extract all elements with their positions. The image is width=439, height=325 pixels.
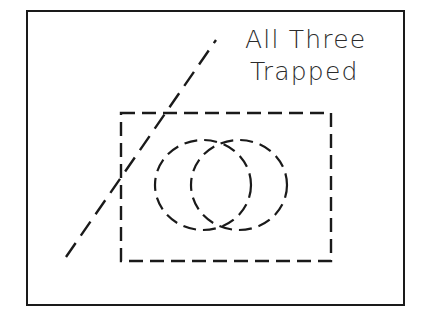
- caption-line-2: Trapped: [250, 57, 359, 86]
- caption-line-1: All Three: [245, 25, 366, 54]
- figure-background: [0, 0, 439, 325]
- figure-canvas: All Three Trapped: [0, 0, 439, 325]
- figure-container: All Three Trapped: [0, 0, 439, 325]
